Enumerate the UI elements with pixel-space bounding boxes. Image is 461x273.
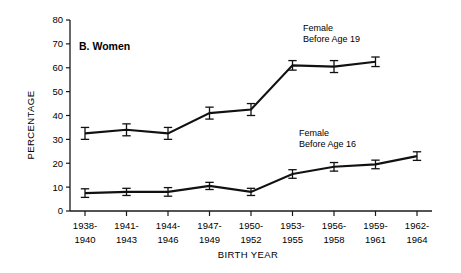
series-label-before-age-19-line2: Before Age 19 — [303, 34, 360, 44]
x-axis-tick-label: 1955 — [282, 234, 303, 245]
y-axis-tick-label: 80 — [52, 14, 63, 25]
x-axis-tick-label: 1950- — [239, 220, 263, 231]
y-axis-tick-label: 0 — [58, 205, 63, 216]
y-axis-tick-label: 60 — [52, 62, 63, 73]
chart-figure: 01020304050607080 1938-19401941-19431944… — [0, 0, 461, 273]
x-axis-tick-label: 1952 — [240, 234, 261, 245]
x-axis-tick-label: 1944- — [156, 220, 180, 231]
series-label-before-age-19-line1: Female — [303, 23, 333, 33]
y-axis-tick-label: 30 — [52, 134, 63, 145]
x-axis-tick-label: 1961 — [365, 234, 386, 245]
x-axis-tick-label: 1946 — [157, 234, 178, 245]
x-axis-tick-label: 1949 — [199, 234, 220, 245]
series-label-before-age-16-line1: Female — [299, 128, 329, 138]
x-axis-tick-label: 1956- — [322, 220, 346, 231]
panel-label: B. Women — [79, 40, 130, 52]
chart-background — [0, 0, 461, 273]
x-axis-tick-label: 1958 — [323, 234, 344, 245]
y-axis-tick-label: 40 — [52, 110, 63, 121]
y-axis-title: PERCENTAGE — [25, 91, 36, 160]
x-axis-tick-label: 1953- — [280, 220, 304, 231]
x-axis-tick-label: 1940 — [74, 234, 95, 245]
x-axis-tick-label: 1962- — [405, 220, 429, 231]
y-axis-tick-label: 70 — [52, 38, 63, 49]
x-axis-tick-label: 1943 — [116, 234, 137, 245]
x-axis-tick-label: 1959- — [363, 220, 387, 231]
x-axis-tick-label: 1947- — [197, 220, 221, 231]
series-label-before-age-16-line2: Before Age 16 — [299, 139, 356, 149]
x-axis-tick-label: 1964 — [406, 234, 427, 245]
x-axis-tick-label: 1941- — [114, 220, 138, 231]
y-axis-tick-label: 20 — [52, 158, 63, 169]
x-axis-title: BIRTH YEAR — [218, 249, 279, 260]
y-axis-tick-label: 50 — [52, 86, 63, 97]
x-axis-tick-label: 1938- — [73, 220, 97, 231]
y-axis-tick-label: 10 — [52, 182, 63, 193]
line-chart: 01020304050607080 1938-19401941-19431944… — [0, 0, 461, 273]
